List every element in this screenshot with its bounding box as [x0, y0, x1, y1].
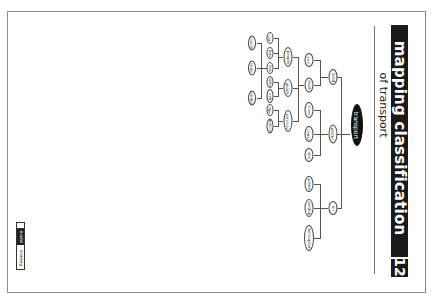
node-tram: tram	[248, 61, 256, 76]
node-coach: coach	[248, 36, 256, 51]
logo-left-text: model	[18, 231, 23, 243]
page-subtitle: of transport	[377, 73, 390, 138]
node-rail: rail	[305, 53, 314, 67]
node-van: van	[267, 89, 274, 103]
node-goods: goods	[284, 79, 293, 97]
node-services: services	[284, 110, 293, 132]
node-water: water	[329, 125, 338, 144]
node-plane: plane	[305, 176, 314, 192]
logo-icon	[17, 223, 24, 229]
node-sea: sea	[305, 148, 314, 162]
page-title: mapping classification	[391, 41, 409, 236]
node-bus: bus	[267, 47, 274, 59]
node-helicopter: helicopter	[304, 225, 314, 251]
node-land: land	[329, 69, 338, 85]
node-people: people	[284, 47, 293, 67]
node-taxi: taxi	[267, 62, 274, 74]
node-lorry: lorry	[267, 76, 274, 88]
logo-right-text: learning	[18, 250, 23, 266]
node-police: police	[267, 119, 274, 134]
node-canal: canal	[305, 126, 314, 142]
node-minibus: minibus	[248, 91, 256, 106]
page-frame	[7, 11, 426, 293]
title-rule	[374, 26, 375, 274]
page-number: 12	[392, 257, 408, 276]
node-river: river	[305, 102, 314, 118]
node-air: air	[329, 201, 338, 215]
node-transport: transport	[351, 104, 363, 146]
node-airship: airship	[305, 199, 314, 217]
node-fire: fire	[267, 104, 274, 116]
node-car: car	[267, 32, 274, 44]
node-road: road	[305, 78, 314, 93]
